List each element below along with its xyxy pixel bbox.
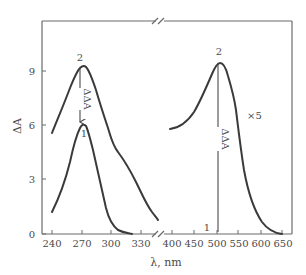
x-tick-450: 450 bbox=[184, 238, 203, 249]
curve-label-2-visible: 2 bbox=[216, 46, 222, 57]
x-tick-240: 240 bbox=[42, 238, 61, 249]
x-tick-270: 270 bbox=[72, 238, 91, 249]
curve-label-2-uv: 2 bbox=[77, 52, 83, 63]
x-tick-300: 300 bbox=[101, 238, 120, 249]
chart: 0 3 6 9 ΔA 240 270 300 330 400 450 bbox=[0, 0, 306, 275]
x-axis-ticks-uv: 240 270 300 330 bbox=[42, 230, 150, 249]
y-tick-0: 0 bbox=[29, 229, 35, 240]
x-tick-500: 500 bbox=[207, 238, 226, 249]
curve-1-uv bbox=[52, 125, 132, 234]
delta-label-uv: ΔΔA bbox=[82, 88, 93, 110]
scale-note-x5: ×5 bbox=[247, 110, 262, 121]
delta-label-visible: ΔΔA bbox=[220, 128, 231, 150]
x-axis-label: λ, nm bbox=[150, 256, 182, 269]
x-axis-ticks-visible: 400 450 500 550 600 650 bbox=[162, 230, 292, 249]
x-tick-400: 400 bbox=[162, 238, 181, 249]
y-tick-9: 9 bbox=[29, 66, 35, 77]
y-tick-6: 6 bbox=[29, 120, 35, 131]
y-axis-ticks: 0 3 6 9 bbox=[29, 66, 46, 240]
x-tick-330: 330 bbox=[131, 238, 150, 249]
curve-label-1-visible: 1 bbox=[204, 222, 210, 233]
y-tick-3: 3 bbox=[29, 174, 35, 185]
x-tick-550: 550 bbox=[229, 238, 248, 249]
y-axis-label: ΔA bbox=[11, 117, 24, 134]
x-tick-650: 650 bbox=[273, 238, 292, 249]
curve-2-uv bbox=[52, 66, 158, 220]
x-tick-600: 600 bbox=[251, 238, 270, 249]
curve-label-1-uv: 1 bbox=[81, 128, 87, 139]
